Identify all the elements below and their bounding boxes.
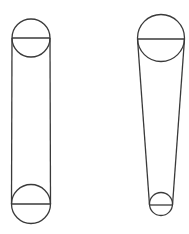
belt-right-side xyxy=(50,38,51,204)
large-pulley xyxy=(138,15,185,62)
unequal-pulley-drive xyxy=(138,15,185,216)
belt-right-side xyxy=(173,39,185,205)
belt-left-side xyxy=(12,38,13,204)
belt-left-side xyxy=(138,39,150,205)
small-pulley xyxy=(150,193,173,216)
equal-pulley-drive xyxy=(12,19,51,224)
belt-pulley-diagram xyxy=(0,0,189,234)
